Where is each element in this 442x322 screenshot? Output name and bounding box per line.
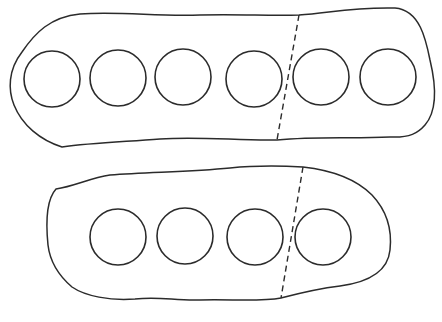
- top-plate: [10, 8, 434, 147]
- top-plate-hole-2: [90, 50, 146, 106]
- bottom-plate: [47, 166, 391, 300]
- top-plate-dashed-divider: [277, 15, 299, 140]
- bottom-plate-hole-3: [227, 209, 283, 265]
- bottom-plate-outline: [47, 166, 391, 300]
- top-plate-hole-1: [24, 51, 80, 107]
- bottom-plate-hole-4: [295, 209, 351, 265]
- bottom-plate-hole-1: [90, 209, 146, 265]
- top-plate-outline: [10, 8, 434, 147]
- top-plate-hole-4: [226, 51, 282, 107]
- bottom-plate-dashed-divider: [281, 167, 303, 298]
- top-plate-hole-5: [293, 49, 349, 105]
- top-plate-hole-3: [155, 49, 211, 105]
- bottom-plate-hole-2: [157, 208, 213, 264]
- top-plate-hole-6: [360, 49, 416, 105]
- diagram-canvas: [0, 0, 442, 322]
